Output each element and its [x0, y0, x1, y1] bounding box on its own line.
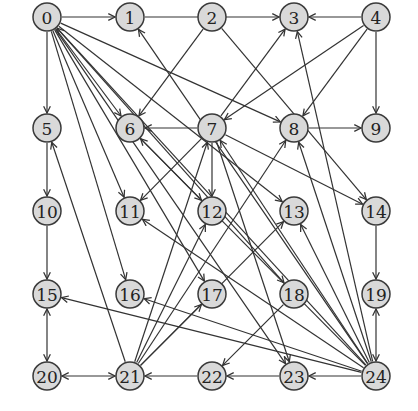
node-3: 3 — [280, 3, 308, 31]
node-6: 6 — [116, 114, 144, 142]
node-label: 13 — [283, 202, 305, 222]
node-15: 15 — [33, 280, 61, 308]
edge-7-3 — [221, 29, 285, 116]
edge-0-13 — [59, 26, 282, 201]
node-label: 23 — [283, 367, 305, 387]
node-19: 19 — [362, 280, 390, 308]
node-9: 9 — [362, 114, 390, 142]
node-11: 11 — [116, 197, 144, 225]
node-label: 4 — [371, 8, 382, 28]
node-label: 1 — [125, 8, 136, 28]
node-label: 19 — [365, 285, 387, 305]
edge-0-16 — [51, 31, 125, 279]
node-label: 22 — [201, 367, 223, 387]
node-label: 11 — [119, 202, 141, 222]
node-label: 5 — [42, 119, 53, 139]
edge-24-15 — [62, 298, 362, 373]
edge-4-8 — [303, 29, 367, 116]
node-label: 3 — [289, 8, 300, 28]
edge-0-17 — [55, 30, 205, 281]
edge-0-8 — [61, 23, 281, 122]
node-label: 2 — [207, 8, 218, 28]
edge-24-13 — [301, 224, 370, 362]
graph-canvas: 0123456789101112131415161718192021222324 — [0, 0, 418, 411]
node-14: 14 — [362, 197, 390, 225]
node-label: 21 — [119, 367, 141, 387]
node-label: 16 — [119, 285, 141, 305]
node-8: 8 — [280, 114, 308, 142]
node-label: 20 — [36, 367, 58, 387]
node-label: 14 — [365, 202, 387, 222]
edge-21-7 — [135, 142, 208, 362]
node-13: 13 — [280, 197, 308, 225]
node-label: 15 — [36, 285, 58, 305]
node-label: 24 — [365, 367, 387, 387]
node-16: 16 — [116, 280, 144, 308]
node-22: 22 — [198, 362, 226, 390]
edge-24-1 — [138, 29, 367, 363]
node-0: 0 — [33, 3, 61, 31]
node-2: 2 — [198, 3, 226, 31]
node-20: 20 — [33, 362, 61, 390]
node-1: 1 — [116, 3, 144, 31]
node-label: 10 — [36, 202, 58, 222]
node-17: 17 — [198, 280, 226, 308]
node-12: 12 — [198, 197, 226, 225]
node-label: 12 — [201, 202, 223, 222]
node-label: 0 — [42, 8, 53, 28]
node-5: 5 — [33, 114, 61, 142]
node-21: 21 — [116, 362, 144, 390]
node-label: 8 — [289, 119, 300, 139]
node-18: 18 — [280, 280, 308, 308]
node-label: 9 — [371, 119, 382, 139]
edge-21-12 — [137, 224, 206, 362]
edge-7-14 — [225, 135, 362, 204]
node-24: 24 — [362, 362, 390, 390]
node-label: 18 — [283, 285, 305, 305]
edge-24-8 — [299, 142, 372, 362]
node-label: 17 — [201, 285, 223, 305]
edge-18-22 — [223, 305, 284, 366]
node-10: 10 — [33, 197, 61, 225]
edge-24-3 — [297, 32, 372, 362]
node-4: 4 — [362, 3, 390, 31]
edge-24-7 — [220, 141, 367, 364]
edge-0-23 — [56, 29, 286, 363]
node-label: 7 — [207, 119, 218, 139]
edge-0-18 — [57, 28, 284, 283]
node-23: 23 — [280, 362, 308, 390]
node-label: 6 — [125, 119, 136, 139]
edge-0-6 — [56, 29, 121, 116]
node-7: 7 — [198, 114, 226, 142]
